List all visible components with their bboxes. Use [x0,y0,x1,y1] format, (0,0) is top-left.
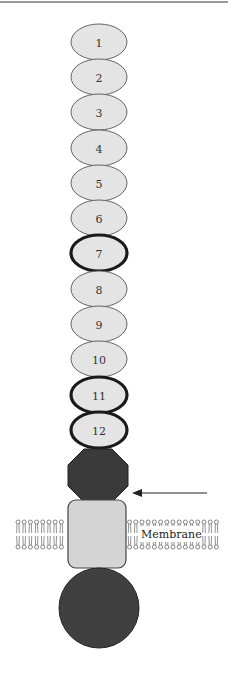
domain-7: 7 [71,235,127,271]
domain-label: 5 [96,178,103,191]
domain-label: 4 [96,143,103,156]
arrowhead-icon [132,489,142,497]
domain-10: 10 [71,341,127,377]
domain-label: 10 [92,354,106,367]
domain-4: 4 [71,130,127,166]
domain-label: 6 [96,213,103,226]
domain-3: 3 [71,94,127,130]
domain-label: 11 [92,390,106,403]
domain-6: 6 [71,200,127,236]
domain-2: 2 [71,59,127,95]
domain-label: 12 [92,425,106,438]
extracellular-domains: 123456789101112 [71,24,127,448]
intracellular-domain [59,568,139,648]
domain-11: 11 [71,377,127,413]
domain-5: 5 [71,165,127,201]
domain-label: 2 [96,72,103,85]
domain-1: 1 [71,24,127,60]
domain-label: 3 [96,107,103,120]
octagon-domain [68,449,128,502]
domain-label: 8 [96,284,103,297]
domain-label: 1 [96,37,103,50]
domain-label: 9 [96,319,103,332]
domain-12: 12 [71,412,127,448]
domain-8: 8 [71,271,127,307]
arrow-indicator [132,489,207,497]
membrane-label: Membrane [141,528,202,541]
domain-9: 9 [71,306,127,342]
transmembrane-box [68,500,126,568]
receptor-diagram: 123456789101112 Membrane [0,0,235,673]
domain-label: 7 [96,248,103,261]
